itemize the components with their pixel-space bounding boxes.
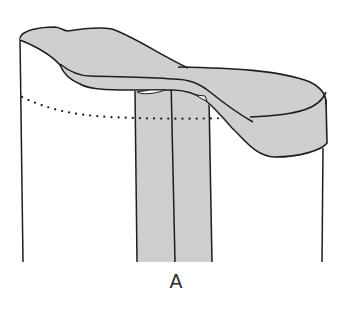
- figure-label: A: [164, 270, 188, 292]
- left-side-edge: [20, 38, 23, 262]
- garment-diagram: A: [0, 0, 349, 309]
- right-side-edge: [322, 148, 323, 262]
